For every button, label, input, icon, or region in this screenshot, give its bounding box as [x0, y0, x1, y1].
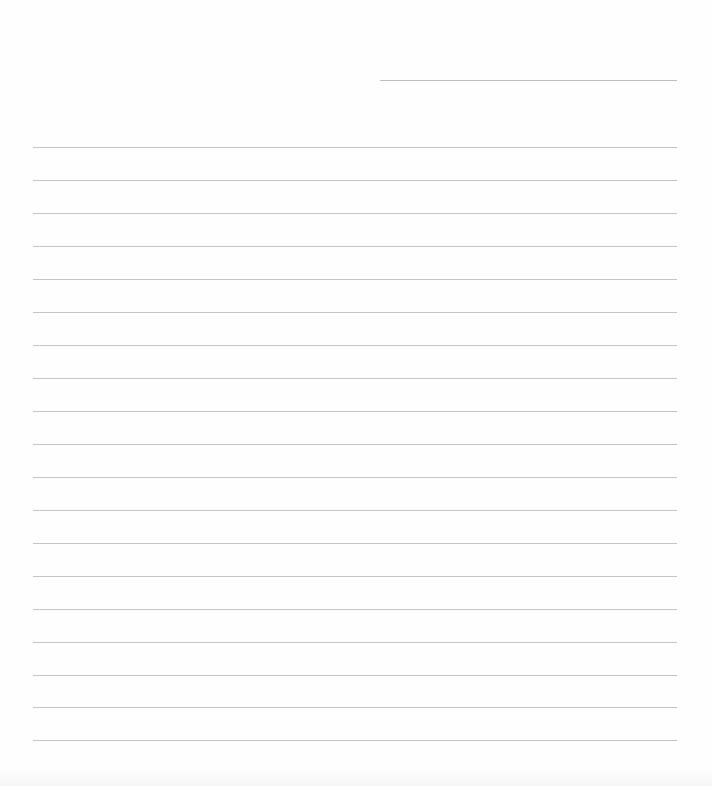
ruled-line: [33, 312, 677, 313]
ruled-line: [33, 345, 677, 346]
ruled-line: [33, 411, 677, 412]
ruled-line: [33, 246, 677, 247]
ruled-line: [33, 707, 677, 708]
ruled-line: [33, 675, 677, 676]
date-line: [380, 80, 677, 81]
ruled-line: [33, 576, 677, 577]
ruled-line: [33, 609, 677, 610]
ruled-line: [33, 378, 677, 379]
ruled-line: [33, 213, 677, 214]
ruled-line: [33, 543, 677, 544]
ruled-line: [33, 180, 677, 181]
ruled-line: [33, 444, 677, 445]
ruled-line: [33, 740, 677, 741]
ruled-line: [33, 510, 677, 511]
ruled-line: [33, 147, 677, 148]
ruled-line: [33, 477, 677, 478]
ruled-line: [33, 279, 677, 280]
paper-edge-texture: [0, 770, 712, 786]
ruled-line: [33, 642, 677, 643]
lined-paper-page: [0, 0, 712, 786]
